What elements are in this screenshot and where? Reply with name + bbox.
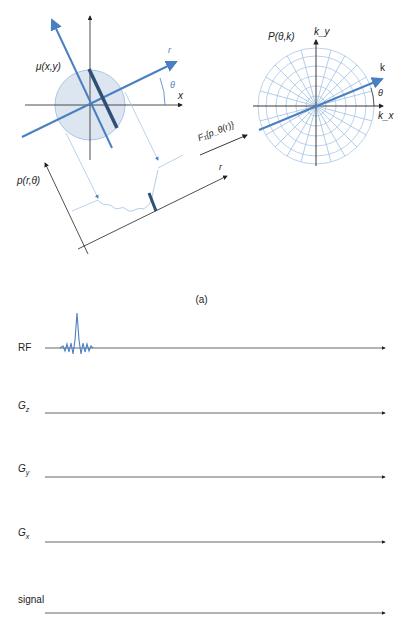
angle-label: θ	[170, 80, 175, 90]
kspace-title: P(θ,k)	[268, 31, 295, 42]
k-label: k	[380, 62, 385, 73]
angle-arc	[160, 78, 165, 105]
pulse-sequence	[45, 313, 385, 613]
rf-row-label: RF	[18, 342, 31, 353]
gz-row-label: Gz	[18, 400, 29, 413]
figure-canvas	[0, 0, 403, 617]
object-label: μ(x,y)	[36, 61, 61, 72]
x-axis-label: x	[178, 90, 183, 101]
gx-row-label: Gx	[18, 527, 29, 540]
projection-r-axis	[78, 176, 227, 249]
signal-row-label: signal	[18, 594, 44, 605]
ky-label: k_y	[314, 26, 330, 37]
gy-row-label: Gy	[18, 463, 29, 476]
projection-label: p(r,θ)	[17, 175, 40, 186]
figure-caption: (a)	[0, 294, 403, 305]
k-angle-label: θ	[378, 88, 383, 98]
projection-profile	[98, 170, 158, 211]
projection-axis-label: r	[219, 162, 222, 172]
kx-label: k_x	[378, 110, 394, 121]
projection-p-axis	[45, 163, 88, 254]
rotated-axis-label: r	[168, 45, 171, 55]
kspace-panel	[253, 40, 383, 166]
